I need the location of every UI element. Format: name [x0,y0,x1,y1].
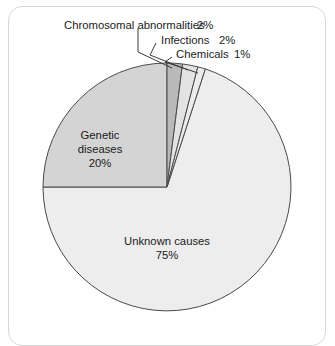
callout-value-chemicals: 1% [234,48,250,60]
callout-label-infections: Infections [161,34,210,46]
callout-label-chromosomal: Chromosomal abnormalities [64,19,205,31]
slice-label-unknown-line1: Unknown causes [124,235,210,247]
callout-value-chromosomal: 2% [197,19,213,31]
slice-value-unknown: 75% [156,249,179,261]
slice-value-genetic: 20% [89,157,112,169]
slice-label-genetic-line1: Genetic [81,129,120,141]
slice-label-genetic-line2: diseases [78,143,123,155]
callout-value-infections: 2% [219,34,235,46]
callout-label-chemicals: Chemicals [176,48,229,60]
